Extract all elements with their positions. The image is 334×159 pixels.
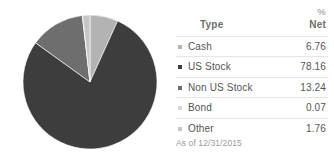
legend-label: Other [188, 123, 214, 134]
swatch-non-us-stock-icon [178, 86, 182, 90]
legend-value: 13.24 [300, 82, 326, 93]
percent-symbol-header: % [317, 6, 326, 17]
legend-row-non-us-stock[interactable]: Non US Stock 13.24 [176, 77, 328, 97]
column-header-net: Net [309, 19, 326, 30]
swatch-us-stock-icon [178, 65, 182, 69]
legend-label: Cash [188, 41, 212, 52]
pie-chart [20, 12, 160, 152]
legend-value: 78.16 [300, 61, 326, 72]
legend-label: Non US Stock [188, 82, 253, 93]
legend-row-other[interactable]: Other 1.76 [176, 118, 328, 138]
legend-row-bond[interactable]: Bond 0.07 [176, 97, 328, 117]
swatch-other-icon [178, 127, 182, 131]
as-of-date: As of 12/31/2015 [176, 138, 242, 148]
legend-table: % Type Net Cash 6.76 US Stock 78.16 Non … [176, 6, 328, 154]
legend-label: Bond [188, 102, 212, 113]
swatch-bond-icon [178, 106, 182, 110]
legend-value: 1.76 [306, 123, 326, 134]
asset-allocation-widget: % Type Net Cash 6.76 US Stock 78.16 Non … [0, 0, 334, 159]
column-header-type: Type [200, 19, 223, 30]
legend-row-cash[interactable]: Cash 6.76 [176, 36, 328, 56]
pie-chart-svg [20, 12, 160, 152]
legend-header: % Type Net [176, 6, 328, 36]
legend-value: 0.07 [306, 102, 326, 113]
legend-label: US Stock [188, 61, 231, 72]
legend-row-us-stock[interactable]: US Stock 78.16 [176, 56, 328, 76]
swatch-cash-icon [178, 45, 182, 49]
legend-value: 6.76 [306, 41, 326, 52]
